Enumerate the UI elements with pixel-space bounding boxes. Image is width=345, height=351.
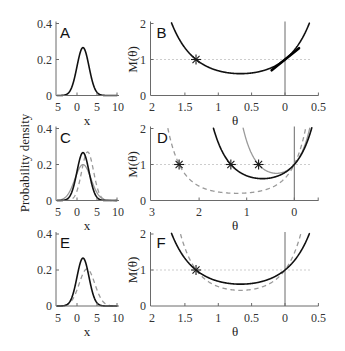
black-solid-m-curve	[172, 233, 310, 284]
x-axis-label-theta: θ	[232, 218, 238, 233]
panel-letter: B	[157, 24, 167, 41]
x-tick-label: 0	[74, 311, 80, 325]
black-solid-m-curve	[172, 23, 310, 74]
gray-dashed-m-curve	[168, 128, 306, 193]
y-axis-label-m-theta: M(θ)	[125, 151, 140, 177]
black-solid-density-curve	[57, 258, 117, 306]
gray-dashed-m-curve	[181, 234, 301, 290]
x-tick-label: 2	[149, 311, 155, 325]
x-tick-label: 1	[215, 100, 221, 114]
x-tick-label: 5	[94, 100, 100, 114]
black-solid-density-curve	[57, 48, 117, 96]
x-tick-label: 5	[55, 100, 61, 114]
x-tick-label: 2	[149, 100, 155, 114]
panel-e-plot-area	[57, 258, 117, 306]
asterisk-marker-icon	[174, 160, 184, 170]
y-tick-label: 2	[140, 227, 146, 241]
y-tick-label: 0.4	[37, 122, 52, 136]
x-tick-label: 0	[74, 205, 80, 219]
y-axis-label-m-theta: M(θ)	[125, 46, 140, 72]
panel-f-plot-area	[153, 232, 311, 306]
x-tick-label: 3	[149, 205, 155, 219]
x-tick-label: 10	[112, 311, 124, 325]
x-tick-label: 1.5	[177, 311, 192, 325]
x-axis-label-theta: θ	[232, 113, 238, 128]
y-tick-label: 0	[46, 299, 52, 313]
x-tick-label: 5	[94, 311, 100, 325]
panel-letter: D	[157, 129, 168, 146]
x-tick-label: 5	[94, 205, 100, 219]
panel-d: 0 1 2 3 2 1 0 θ M(θ) D	[125, 122, 319, 234]
x-tick-label: 10	[112, 205, 124, 219]
panel-letter: E	[60, 234, 70, 251]
panel-d-plot-area	[153, 127, 312, 201]
y-tick-label: 0	[46, 194, 52, 208]
y-tick-label: 0	[140, 299, 146, 313]
panel-c: 0 0.2 0.4 5 0 5 10 x C	[37, 122, 124, 234]
x-tick-label: 0.5	[244, 311, 259, 325]
x-axis-label-theta: θ	[232, 324, 238, 339]
y-tick-label: 1	[140, 53, 146, 67]
y-tick-label: 2	[140, 122, 146, 136]
x-tick-label: 0	[291, 205, 297, 219]
x-tick-label: 0.5	[311, 311, 326, 325]
y-tick-label: 1	[140, 263, 146, 277]
panel-b-plot-area	[153, 22, 311, 96]
asterisk-marker-icon	[191, 55, 201, 65]
y-tick-label: 0	[140, 89, 146, 103]
panel-f: 0 1 2 2 1.5 1 0.5 0 0.5 θ M(θ) F	[125, 227, 326, 339]
panel-letter: C	[60, 129, 71, 146]
x-tick-label: 5	[55, 205, 61, 219]
panel-b: 0 1 2 2 1.5 1 0.5 0 0.5 θ M(θ) B	[125, 17, 326, 129]
x-tick-label: 2	[196, 205, 202, 219]
gray-dashed-density-curve	[57, 269, 117, 306]
asterisk-marker-icon	[226, 160, 236, 170]
y-tick-label: 0.2	[37, 53, 52, 67]
y-axis-label-probability-density: Probability density	[17, 113, 32, 212]
x-tick-label: 1	[244, 205, 250, 219]
panel-e: 0 0.2 0.4 5 0 5 10 x E	[37, 227, 124, 339]
y-tick-label: 0	[140, 194, 146, 208]
x-tick-label: 0	[282, 311, 288, 325]
panel-letter: A	[60, 24, 70, 41]
x-tick-label: 5	[55, 311, 61, 325]
x-tick-label: 0	[282, 100, 288, 114]
y-tick-label: 0.2	[37, 263, 52, 277]
x-tick-label: 0	[74, 100, 80, 114]
y-tick-label: 0.2	[37, 158, 52, 172]
y-tick-label: 1	[140, 158, 146, 172]
gray-solid-m-curve	[243, 128, 310, 173]
x-axis-label: x	[84, 113, 91, 128]
y-axis-label-m-theta: M(θ)	[125, 257, 140, 283]
gray-solid-density-curve	[57, 165, 117, 201]
asterisk-marker-icon	[254, 160, 264, 170]
y-tick-label: 0.4	[37, 17, 52, 31]
figure: Probability density 0 0.2 0.4 5 0 5 10 x…	[0, 0, 345, 351]
x-tick-label: 10	[112, 100, 124, 114]
black-solid-density-curve	[57, 153, 117, 201]
y-tick-label: 0	[46, 89, 52, 103]
asterisk-marker-icon	[191, 265, 201, 275]
x-axis-label: x	[84, 324, 91, 339]
black-solid-m-curve	[213, 128, 311, 179]
x-tick-label: 0.5	[311, 100, 326, 114]
y-tick-label: 0.4	[37, 227, 52, 241]
x-tick-label: 1.5	[177, 100, 192, 114]
x-tick-label: 0.5	[244, 100, 259, 114]
x-axis-label: x	[84, 218, 91, 233]
x-tick-label: 1	[215, 311, 221, 325]
panel-letter: F	[157, 234, 166, 251]
y-tick-label: 2	[140, 17, 146, 31]
panel-c-plot-area	[57, 152, 117, 201]
panel-a: 0 0.2 0.4 5 0 5 10 x A	[37, 17, 124, 129]
panel-a-plot-area	[57, 48, 117, 96]
